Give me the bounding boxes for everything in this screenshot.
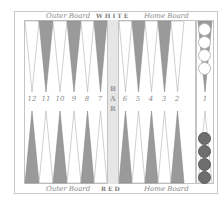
point-number: 4 — [144, 95, 158, 103]
point[interactable] — [119, 21, 132, 92]
point[interactable] — [158, 111, 171, 183]
point[interactable] — [171, 21, 184, 92]
white-checker[interactable] — [198, 23, 211, 36]
bar-letter: R — [107, 104, 119, 113]
red-checker[interactable] — [198, 158, 211, 171]
point[interactable] — [81, 111, 94, 183]
point[interactable] — [158, 21, 171, 92]
point[interactable] — [39, 111, 53, 183]
red-checker[interactable] — [198, 145, 211, 158]
point-number: 11 — [39, 95, 53, 103]
point[interactable] — [53, 111, 67, 183]
top-right-points — [119, 21, 184, 92]
red-checker[interactable] — [198, 171, 211, 184]
point-number: 5 — [131, 95, 145, 103]
point-number: 2 — [170, 95, 184, 103]
bottom-left-points — [25, 111, 107, 183]
white-checker[interactable] — [198, 36, 211, 49]
point[interactable] — [145, 21, 158, 92]
bottom-player-label: RED — [101, 185, 122, 193]
red-checker[interactable] — [198, 132, 211, 145]
top-left-points — [25, 21, 107, 92]
point[interactable] — [67, 111, 81, 183]
point[interactable] — [145, 111, 158, 183]
point[interactable] — [94, 111, 107, 183]
bottom-outer-board-label: Outer Board — [46, 185, 90, 193]
point[interactable] — [81, 21, 94, 92]
bar-letter: B — [107, 84, 119, 93]
point-number: 1 — [198, 95, 212, 103]
point[interactable] — [39, 21, 53, 92]
point[interactable] — [25, 21, 39, 92]
point[interactable] — [94, 21, 107, 92]
top-player-label: WHITE — [96, 12, 130, 20]
top-home-board-label: Home Board — [144, 12, 189, 20]
point-number: 3 — [157, 95, 171, 103]
point-number: 6 — [118, 95, 132, 103]
point[interactable] — [171, 111, 184, 183]
top-outer-board-label: Outer Board — [46, 12, 90, 20]
point-number: 12 — [25, 95, 39, 103]
point[interactable] — [119, 111, 132, 183]
point-number: 8 — [80, 95, 94, 103]
point-number: 10 — [53, 95, 67, 103]
white-checker[interactable] — [198, 49, 211, 62]
point[interactable] — [25, 111, 39, 183]
bottom-home-board-label: Home Board — [144, 185, 189, 193]
white-checker[interactable] — [198, 62, 211, 75]
point[interactable] — [53, 21, 67, 92]
bottom-right-points — [119, 111, 184, 183]
point-number: 7 — [93, 95, 107, 103]
point-number: 9 — [67, 95, 81, 103]
point[interactable] — [132, 111, 145, 183]
point[interactable] — [67, 21, 81, 92]
point[interactable] — [132, 21, 145, 92]
